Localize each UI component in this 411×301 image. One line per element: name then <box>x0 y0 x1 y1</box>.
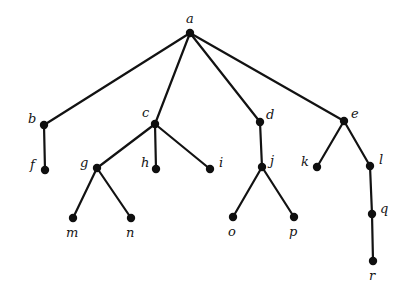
tree-node-label-p: p <box>289 225 297 238</box>
tree-node-b[interactable] <box>40 121 48 129</box>
tree-edge <box>97 168 131 218</box>
tree-node-g[interactable] <box>93 164 101 172</box>
tree-edge <box>262 167 294 217</box>
tree-node-m[interactable] <box>69 214 77 222</box>
tree-node-label-e: e <box>351 107 359 120</box>
tree-node-q[interactable] <box>368 210 376 218</box>
tree-node-label-b: b <box>28 112 36 125</box>
tree-node-label-i: i <box>219 156 223 169</box>
tree-node-label-m: m <box>66 226 78 239</box>
tree-edge <box>190 33 260 122</box>
tree-node-c[interactable] <box>151 120 159 128</box>
tree-edge <box>260 122 262 167</box>
tree-node-n[interactable] <box>127 214 135 222</box>
tree-node-label-f: f <box>30 158 35 171</box>
tree-node-label-r: r <box>369 269 375 282</box>
tree-node-d[interactable] <box>256 118 264 126</box>
tree-node-o[interactable] <box>229 213 237 221</box>
tree-node-label-j: j <box>270 154 274 167</box>
tree-edge <box>155 33 190 124</box>
tree-node-label-a: a <box>186 12 194 25</box>
tree-node-e[interactable] <box>340 117 348 125</box>
tree-edge <box>317 121 344 167</box>
tree-node-label-k: k <box>301 155 309 168</box>
tree-node-label-h: h <box>141 156 149 169</box>
tree-node-f[interactable] <box>41 166 49 174</box>
tree-node-label-c: c <box>142 106 149 119</box>
tree-edge <box>44 125 45 170</box>
tree-edge <box>44 33 190 125</box>
tree-node-label-n: n <box>126 226 134 239</box>
edge-layer <box>44 33 373 261</box>
tree-edge <box>155 124 210 169</box>
node-layer <box>40 29 377 265</box>
tree-edge <box>370 166 372 214</box>
tree-node-i[interactable] <box>206 165 214 173</box>
tree-edge <box>372 214 373 261</box>
tree-node-a[interactable] <box>186 29 194 37</box>
tree-node-j[interactable] <box>258 163 266 171</box>
tree-node-label-q: q <box>380 202 388 215</box>
tree-node-label-d: d <box>266 108 274 121</box>
tree-node-k[interactable] <box>313 163 321 171</box>
tree-edge <box>233 167 262 217</box>
tree-node-l[interactable] <box>366 162 374 170</box>
tree-node-label-o: o <box>228 225 236 238</box>
tree-edge <box>73 168 97 218</box>
tree-node-p[interactable] <box>290 213 298 221</box>
tree-node-label-g: g <box>80 156 88 169</box>
tree-node-r[interactable] <box>369 257 377 265</box>
tree-graph-svg <box>0 0 411 301</box>
tree-diagram: abcdefghijklmnopqr <box>0 0 411 301</box>
tree-edge <box>155 124 156 169</box>
tree-node-h[interactable] <box>152 165 160 173</box>
tree-edge <box>344 121 370 166</box>
tree-node-label-l: l <box>379 153 383 166</box>
